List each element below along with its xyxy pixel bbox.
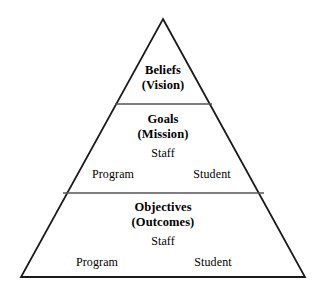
tier-goals-role-program: Program bbox=[92, 168, 134, 181]
tier-objectives-role-student: Student bbox=[194, 256, 231, 269]
tier-beliefs-heading: Beliefs bbox=[145, 64, 181, 77]
tier-objectives-role-program: Program bbox=[76, 256, 118, 269]
tier-goals-heading: Goals bbox=[147, 113, 178, 126]
tier-goals-role-student: Student bbox=[193, 168, 230, 181]
tier-beliefs-subheading: (Vision) bbox=[142, 79, 185, 92]
tier-objectives-subheading: (Outcomes) bbox=[132, 216, 195, 229]
tier-objectives-heading: Objectives bbox=[134, 201, 191, 214]
pyramid-diagram: Beliefs (Vision) Goals (Mission) Staff P… bbox=[0, 0, 315, 294]
tier-goals-subheading: (Mission) bbox=[138, 128, 189, 141]
tier-goals-role-staff: Staff bbox=[151, 147, 175, 160]
tier-objectives-role-staff: Staff bbox=[151, 235, 175, 248]
